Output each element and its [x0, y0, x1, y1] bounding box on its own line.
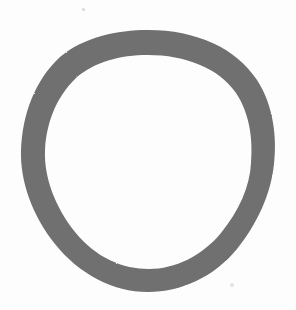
drawing-canvas: O	[0, 0, 296, 310]
hand-drawn-ring-icon	[0, 0, 296, 310]
ring-stroke-path	[21, 30, 275, 292]
